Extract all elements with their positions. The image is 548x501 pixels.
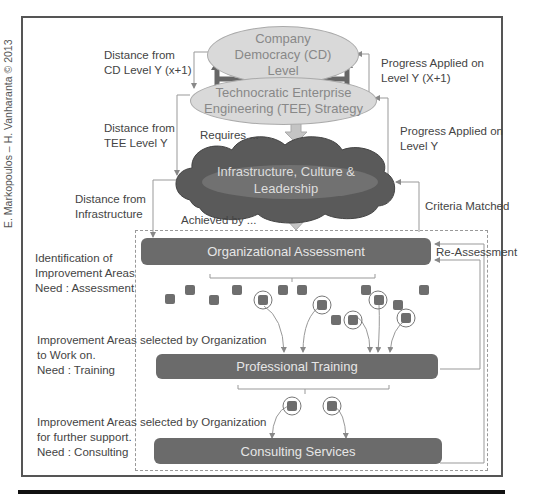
distance-cd-label: Distance from CD Level Y (x+1)	[104, 48, 191, 78]
assessment-need-note: Identification of Improvement Areas Need…	[35, 251, 135, 296]
infrastructure-node: Infrastructure, Culture & Leadership	[176, 163, 396, 197]
criteria-matched-label: Criteria Matched	[425, 199, 509, 214]
distance-tee-label: Distance from TEE Level Y	[104, 121, 175, 151]
progress-cd-label: Progress Applied on Level Y (X+1)	[381, 56, 484, 86]
organizational-assessment-node: Organizational Assessment	[141, 238, 431, 265]
progress-tee-label: Progress Applied on Level Y	[400, 124, 503, 154]
tee-strategy-node: Technocratic Enterprise Engineering (TEE…	[190, 77, 377, 125]
achieved-by-label: Achieved by ...	[181, 213, 256, 228]
requires-label: Requires ...	[200, 128, 259, 143]
re-assessment-label: Re-Assessment	[436, 245, 517, 260]
distance-infra-label: Distance from Infrastructure	[75, 192, 146, 222]
company-democracy-node: Company Democracy (CD) Level	[207, 26, 359, 84]
consulting-need-note: Improvement Areas selected by Organizati…	[37, 415, 266, 460]
training-need-note: Improvement Areas selected by Organizati…	[37, 333, 266, 378]
